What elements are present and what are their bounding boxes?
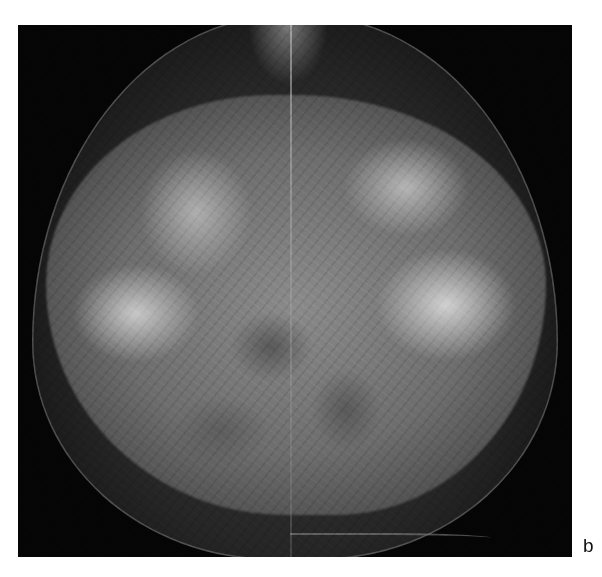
tissue-texture-overlay (18, 25, 572, 557)
mammogram-image (18, 25, 572, 557)
panel-label: b (583, 535, 594, 557)
